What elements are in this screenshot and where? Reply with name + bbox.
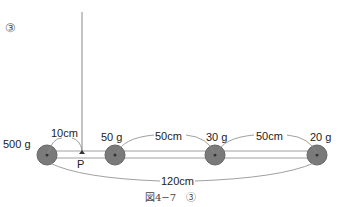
mass-label-20g: 20 g <box>310 131 331 143</box>
arc-120cm-left <box>50 163 160 181</box>
distance-p-offset: 10cm <box>51 127 78 139</box>
mass-label-30g: 30 g <box>206 131 227 143</box>
arc-120cm-right <box>195 163 314 181</box>
mass-label-500g: 500 g <box>3 138 31 150</box>
lever-bar <box>47 151 317 158</box>
distance-gap-2: 50cm <box>256 130 283 142</box>
mass-label-50g: 50 g <box>101 131 122 143</box>
point-p-label: P <box>77 158 84 170</box>
figure-number: ③ <box>5 21 16 35</box>
mass-50g <box>105 145 125 165</box>
arc-10cm-right <box>72 138 82 150</box>
lever-diagram: ③ P 500 g 50 g 30 g 20 g 10cm 50cm 50cm <box>0 0 346 207</box>
mass-30g <box>205 145 225 165</box>
figure-caption: 図4−7 ③ <box>145 192 196 203</box>
distance-gap-1: 50cm <box>155 130 182 142</box>
distance-total: 120cm <box>161 175 194 187</box>
mass-20g <box>307 145 327 165</box>
mass-500g <box>37 145 57 165</box>
